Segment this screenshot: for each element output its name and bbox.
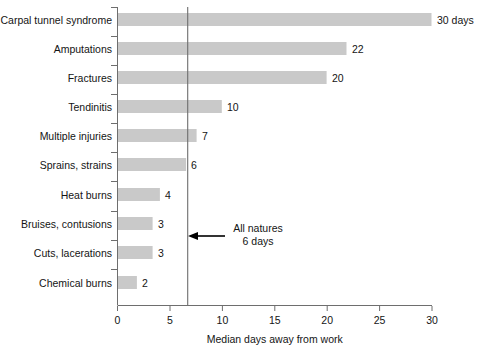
y-axis-label-sprains-strains: Sprains, strains	[0, 159, 112, 171]
x-axis-tick-25: 25	[365, 314, 395, 326]
bar-value-sprains-strains: 6	[191, 159, 197, 171]
bar-chemical-burns	[118, 276, 137, 289]
bar-amputations	[118, 42, 347, 55]
bar-value-fractures: 20	[332, 72, 344, 84]
y-axis-label-multiple-injuries: Multiple injuries	[0, 130, 112, 142]
bar-value-multiple-injuries: 7	[202, 130, 208, 142]
bar-bruises-contusions	[118, 217, 153, 230]
x-axis-tick-0: 0	[103, 314, 133, 326]
y-axis-label-cuts-lacerations: Cuts, lacerations	[0, 247, 112, 259]
bar-value-carpal-tunnel-syndrome: 30 days	[437, 14, 474, 26]
x-axis-tick-10: 10	[207, 314, 237, 326]
y-axis-label-amputations: Amputations	[0, 43, 112, 55]
x-axis-ticks	[118, 306, 433, 311]
x-axis-title: Median days away from work	[118, 333, 433, 345]
x-axis-tick-30: 30	[417, 314, 447, 326]
bar-heat-burns	[118, 188, 160, 201]
x-axis-tick-20: 20	[312, 314, 342, 326]
bar-sprains-strains	[118, 158, 186, 171]
bar-value-chemical-burns: 2	[142, 277, 148, 289]
reference-annotation: All natures 6 days	[193, 222, 323, 248]
y-axis-label-carpal-tunnel-syndrome: Carpal tunnel syndrome	[0, 14, 112, 26]
bar-multiple-injuries	[118, 129, 197, 142]
x-axis-tick-5: 5	[155, 314, 185, 326]
reference-annotation-line1: All natures	[193, 222, 323, 235]
y-axis-label-fractures: Fractures	[0, 72, 112, 84]
bar-value-cuts-lacerations: 3	[158, 247, 164, 259]
reference-annotation-line2: 6 days	[193, 235, 323, 248]
y-axis-label-heat-burns: Heat burns	[0, 189, 112, 201]
y-axis-label-bruises-contusions: Bruises, contusions	[0, 218, 112, 230]
bar-fractures	[118, 71, 327, 84]
bar-value-bruises-contusions: 3	[158, 218, 164, 230]
bar-tendinitis	[118, 100, 222, 113]
bar-value-amputations: 22	[352, 43, 364, 55]
bar-value-tendinitis: 10	[227, 101, 239, 113]
bar-carpal-tunnel-syndrome	[118, 13, 432, 26]
y-axis-label-tendinitis: Tendinitis	[0, 101, 112, 113]
y-axis-label-chemical-burns: Chemical burns	[0, 277, 112, 289]
x-axis-tick-15: 15	[260, 314, 290, 326]
bar-chart: Carpal tunnel syndrome Amputations Fract…	[0, 0, 489, 354]
bar-value-heat-burns: 4	[165, 189, 171, 201]
bar-cuts-lacerations	[118, 246, 153, 259]
